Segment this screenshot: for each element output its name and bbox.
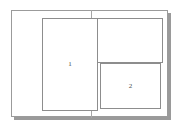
diagram-canvas: 1 2 — [0, 0, 181, 128]
pane-1-label: 1 — [68, 61, 72, 68]
pane-2[interactable]: 2 — [100, 63, 161, 109]
pane-2-label: 2 — [129, 83, 133, 90]
pane-1[interactable]: 1 — [42, 18, 98, 111]
pane-top-right[interactable] — [97, 18, 163, 63]
